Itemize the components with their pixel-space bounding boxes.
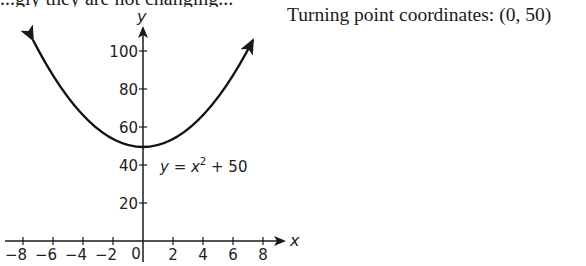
y-tick-label: 60 — [119, 119, 138, 137]
parabola-graph: −8 −6 −4 −2 0 2 4 6 8 20 40 60 80 100 x … — [0, 0, 586, 266]
x-tick-label: −8 — [5, 246, 27, 264]
y-tick-label: 20 — [119, 195, 138, 213]
x-tick-label: 2 — [168, 246, 178, 264]
equation-label: y = x2 + 50 — [159, 156, 247, 176]
x-tick-label: 6 — [228, 246, 238, 264]
y-tick-label: 40 — [119, 157, 138, 175]
y-tick-label: 80 — [119, 81, 138, 99]
x-tick-label: 0 — [131, 245, 141, 263]
y-tick-label: 100 — [109, 43, 138, 61]
x-tick-label: −4 — [65, 246, 87, 264]
y-axis-label: y — [136, 7, 147, 26]
x-tick-label: −2 — [95, 246, 117, 264]
x-tick-labels: −8 −6 −4 −2 0 2 4 6 8 — [5, 245, 268, 264]
x-tick-label: 8 — [258, 246, 268, 264]
x-axis-label: x — [289, 231, 300, 250]
x-tick-label: 4 — [198, 246, 208, 264]
x-tick-label: −6 — [35, 246, 57, 264]
y-tick-labels: 20 40 60 80 100 — [109, 43, 138, 213]
